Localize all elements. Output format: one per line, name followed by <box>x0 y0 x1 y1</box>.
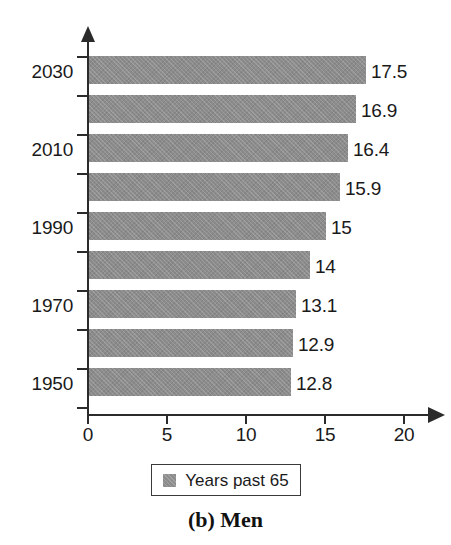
y-axis-tick <box>77 407 88 409</box>
x-axis-label-5: 5 <box>147 425 187 444</box>
bar-value-label-1970: 13.1 <box>301 296 337 315</box>
legend-entry-label: Years past 65 <box>185 472 288 489</box>
plot-area: 17.5 16.9 16.4 15.9 15 14 13.1 12.9 12.8… <box>0 0 451 450</box>
y-axis-arrow-icon <box>81 26 95 42</box>
bar-value-label-1950: 12.8 <box>296 374 332 393</box>
bar-1990 <box>89 212 326 240</box>
y-axis-tick <box>77 368 88 370</box>
bar-2010 <box>89 134 348 162</box>
y-axis-tick <box>77 212 88 214</box>
legend: Years past 65 <box>151 464 301 496</box>
bar-1970 <box>89 290 296 318</box>
bar-value-label-2020: 16.9 <box>361 101 397 120</box>
y-axis-label-1950: 1950 <box>9 374 73 393</box>
figure-caption: (b) Men <box>0 508 451 532</box>
bar-value-label-2000: 15.9 <box>345 179 381 198</box>
x-axis-tick <box>245 414 247 424</box>
x-axis-label-20: 20 <box>384 425 424 444</box>
figure-root: 17.5 16.9 16.4 15.9 15 14 13.1 12.9 12.8… <box>0 0 451 545</box>
x-axis-tick <box>403 414 405 424</box>
bar-2030 <box>89 56 366 84</box>
y-axis-label-1990: 1990 <box>9 218 73 237</box>
y-axis-tick <box>77 134 88 136</box>
y-axis-tick <box>77 329 88 331</box>
x-axis-label-10: 10 <box>226 425 266 444</box>
bar-value-label-1980: 14 <box>315 257 336 276</box>
y-axis-label-2030: 2030 <box>9 62 73 81</box>
bar-1950 <box>89 368 291 396</box>
y-axis-tick <box>77 56 88 58</box>
x-axis-label-15: 15 <box>305 425 345 444</box>
y-axis-tick <box>77 173 88 175</box>
x-axis-arrow-icon <box>428 407 445 423</box>
bar-2000 <box>89 173 340 201</box>
y-axis-tick <box>77 251 88 253</box>
x-axis-line <box>87 414 440 416</box>
bar-value-label-2030: 17.5 <box>371 62 407 81</box>
y-axis-label-2010: 2010 <box>9 140 73 159</box>
x-axis-label-0: 0 <box>68 425 108 444</box>
x-axis-tick <box>166 414 168 424</box>
bar-value-label-2010: 16.4 <box>353 140 389 159</box>
legend-swatch-icon <box>163 474 176 487</box>
x-axis-tick <box>324 414 326 424</box>
y-axis-tick <box>77 290 88 292</box>
bar-value-label-1960: 12.9 <box>298 335 334 354</box>
x-axis-tick <box>87 414 89 424</box>
bar-2020 <box>89 95 356 123</box>
bar-value-label-1990: 15 <box>331 218 352 237</box>
bar-1980 <box>89 251 310 279</box>
y-axis-label-1970: 1970 <box>9 296 73 315</box>
bar-1960 <box>89 329 293 357</box>
y-axis-tick <box>77 95 88 97</box>
